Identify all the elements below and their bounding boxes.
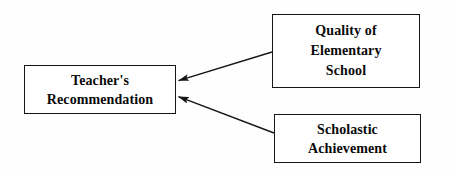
node-label-line: Scholastic: [317, 120, 378, 139]
node-label-line: Quality of: [315, 21, 376, 41]
arrow-achievement-to-recommendation: [179, 97, 275, 133]
node-label-line: Recommendation: [47, 90, 153, 109]
path-diagram: Teacher's Recommendation Quality of Elem…: [0, 0, 451, 175]
node-label-line: Teacher's: [71, 71, 129, 90]
node-quality-of-elementary-school: Quality of Elementary School: [272, 14, 420, 88]
node-label-line: Achievement: [308, 139, 387, 158]
arrow-quality-to-recommendation: [179, 52, 273, 81]
node-scholastic-achievement: Scholastic Achievement: [274, 114, 421, 163]
node-teachers-recommendation: Teacher's Recommendation: [24, 65, 176, 114]
node-label-line: Elementary: [311, 41, 382, 61]
node-label-line: School: [326, 61, 366, 81]
